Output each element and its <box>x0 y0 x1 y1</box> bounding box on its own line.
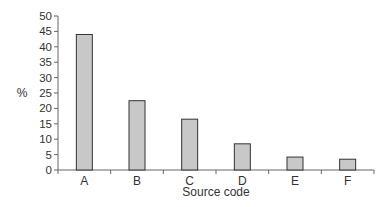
y-tick-label: 5 <box>46 149 52 161</box>
bar-c <box>182 119 198 170</box>
y-tick-label: 10 <box>39 133 52 145</box>
bars <box>76 34 355 170</box>
bar-d <box>234 144 250 170</box>
y-tick-label: 15 <box>39 118 52 130</box>
y-tick-label: 45 <box>39 25 52 37</box>
bar-f <box>340 159 356 170</box>
y-tick-label: 20 <box>39 102 52 114</box>
x-category-label: B <box>133 174 141 188</box>
bar-a <box>76 34 92 170</box>
bar-e <box>287 157 303 170</box>
x-category-label: A <box>80 174 88 188</box>
bar-b <box>129 101 145 170</box>
y-tick-label: 35 <box>39 56 52 68</box>
x-category-label: F <box>344 174 351 188</box>
y-axis-title: % <box>17 86 28 100</box>
x-category-label: E <box>291 174 299 188</box>
y-tick-label: 25 <box>39 87 52 99</box>
x-axis-title: Source code <box>182 185 250 199</box>
y-tick-label: 50 <box>39 10 52 22</box>
y-tick-label: 40 <box>39 41 52 53</box>
bar-chart: 05101520253035404550 ABCDEF % Source cod… <box>0 0 388 207</box>
y-tick-label: 0 <box>46 164 52 176</box>
y-axis: 05101520253035404550 <box>39 10 58 176</box>
y-tick-label: 30 <box>39 72 52 84</box>
